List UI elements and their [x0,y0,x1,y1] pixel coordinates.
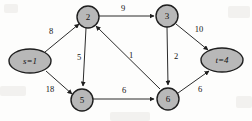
weight-label-6-t4: 6 [198,84,202,94]
edge-2-to-5 [83,28,86,86]
node-s1-label: s=1 [23,56,37,66]
weight-label-s1-5: 18 [46,84,55,94]
edge-weight-labels: 8 18 9 5 10 2 6 1 6 [46,3,204,95]
node-t4-label: t=4 [215,55,229,65]
graph-figure: 8 18 9 5 10 2 6 1 6 s=1 2 [0,0,252,121]
node-s1[interactable]: s=1 [9,49,51,73]
weight-label-2-5: 5 [77,52,81,62]
node-6-label: 6 [166,94,171,104]
node-2-label: 2 [86,12,91,22]
node-5[interactable]: 5 [71,89,93,111]
graph-canvas: 8 18 9 5 10 2 6 1 6 s=1 2 [0,0,252,121]
node-5-label: 5 [80,95,85,105]
node-t4[interactable]: t=4 [201,48,243,72]
edge-3-to-6 [167,27,168,85]
weight-label-3-6: 2 [174,51,178,61]
weight-label-5-6: 6 [122,85,126,95]
node-3[interactable]: 3 [156,5,178,27]
edge-6-to-t4 [178,71,209,93]
node-2[interactable]: 2 [77,6,99,28]
nodes-layer: s=1 2 3 t=4 5 [9,5,243,111]
node-3-label: 3 [165,11,170,21]
node-6[interactable]: 6 [157,88,179,110]
weight-label-s1-2: 8 [49,26,53,36]
weight-label-2-3: 9 [121,3,125,13]
edges-layer [45,16,209,99]
weight-label-3-t4: 10 [195,24,204,34]
weight-label-6-2: 1 [129,50,133,60]
